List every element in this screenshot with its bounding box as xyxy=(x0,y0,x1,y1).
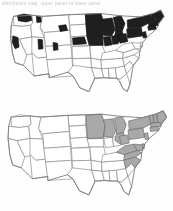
lower-us-map-svg xyxy=(0,104,173,208)
state-wy-2 xyxy=(43,131,71,148)
state-il-highlight xyxy=(103,36,112,45)
state-co xyxy=(45,45,72,60)
state-mi-highlight xyxy=(113,16,125,33)
state-in-highlight xyxy=(112,36,119,44)
state-sd xyxy=(70,24,87,37)
state-ia-2 xyxy=(87,138,104,147)
state-ks-2 xyxy=(72,148,91,161)
state-oh-highlight-2 xyxy=(119,135,129,145)
state-ct-ri-highlight-2 xyxy=(150,126,159,131)
state-nd-2 xyxy=(68,115,86,127)
state-mn-highlight-2 xyxy=(87,114,105,138)
state-or-2 xyxy=(8,126,30,140)
state-ne-2 xyxy=(70,137,89,148)
state-sd-2 xyxy=(69,125,87,138)
upper-us-map-svg xyxy=(0,8,173,100)
upper-us-map xyxy=(0,8,173,100)
state-co-highlight xyxy=(53,43,58,51)
figure-caption-top: distribution map, upper panel vs lower p… xyxy=(2,0,120,7)
state-ny-highlight-2 xyxy=(129,116,151,130)
state-wi-highlight-2 xyxy=(103,119,116,137)
state-ar-2 xyxy=(91,160,102,171)
state-ar xyxy=(91,58,102,69)
state-nj-highlight xyxy=(142,31,146,38)
state-co-2 xyxy=(44,146,72,162)
state-nd xyxy=(69,14,86,25)
state-wi-highlight xyxy=(103,18,115,36)
state-oh-highlight xyxy=(118,34,127,43)
state-ny-highlight xyxy=(127,15,149,28)
state-mn-highlight xyxy=(85,14,104,38)
state-ut-highlight xyxy=(38,39,43,49)
state-ia-highlight xyxy=(87,37,103,45)
state-mi-highlight-2 xyxy=(114,116,126,133)
state-mt-2 xyxy=(39,115,70,133)
lower-us-map xyxy=(0,104,173,208)
state-nj-highlight-2 xyxy=(144,133,149,140)
state-id-highlight xyxy=(36,16,41,22)
state-ct-ri-highlight xyxy=(148,25,156,30)
state-mt-highlight xyxy=(59,25,68,32)
two-panel-us-map-figure: distribution map, upper panel vs lower p… xyxy=(0,0,173,211)
state-ne-highlight xyxy=(73,37,87,45)
state-il-2 xyxy=(104,137,114,147)
state-ks xyxy=(72,46,90,59)
